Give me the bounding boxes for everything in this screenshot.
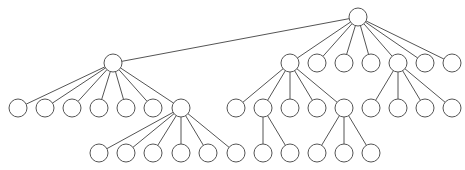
tree-node [199,144,217,162]
tree-node [172,99,190,117]
tree-node [389,54,407,72]
tree-node [281,54,299,72]
tree-node [362,99,380,117]
tree-node [389,99,407,117]
tree-edge [376,71,394,101]
tree-node [281,99,299,117]
tree-node [362,54,380,72]
tree-nodes [9,8,461,162]
tree-node [362,144,380,162]
tree-edge [403,71,421,101]
tree-node [308,99,326,117]
tree-edge [360,26,368,55]
tree-edge [107,112,173,148]
tree-node [281,144,299,162]
tree-node [443,99,461,117]
tree-edge [347,26,356,55]
tree-node [63,99,81,117]
tree-node [172,144,190,162]
tree-node [90,144,108,162]
tree-diagram [0,0,465,170]
tree-edge [268,71,286,101]
tree-node [104,54,122,72]
tree-node [335,144,353,162]
tree-node [144,99,162,117]
tree-edge [295,71,313,101]
tree-node [335,99,353,117]
tree-edge [297,22,350,58]
tree-node [308,144,326,162]
tree-edge [121,68,174,103]
tree-edges [26,19,445,149]
tree-node [117,99,135,117]
tree-node [117,144,135,162]
tree-node [227,99,245,117]
tree-root-node [349,8,367,26]
tree-node [90,99,108,117]
tree-node [335,54,353,72]
tree-node [227,144,245,162]
tree-node [254,99,272,117]
tree-edge [268,116,286,146]
tree-edge [53,68,106,103]
tree-node [254,144,272,162]
tree-edge [186,116,204,146]
tree-edge [349,116,367,146]
tree-node [443,54,461,72]
tree-node [9,99,27,117]
tree-node [36,99,54,117]
tree-node [416,54,434,72]
tree-node [416,99,434,117]
tree-edge [102,72,111,100]
tree-edge [365,22,417,58]
tree-edge [115,72,123,100]
tree-edge [322,116,340,146]
tree-node [308,54,326,72]
tree-node [144,144,162,162]
